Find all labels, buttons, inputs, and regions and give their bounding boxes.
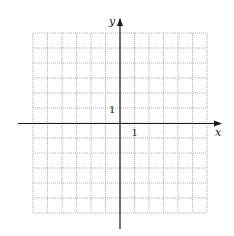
y-tick-label: 1 [109,104,115,115]
coordinate-plane: x y 1 1 [0,0,234,236]
x-axis-label: x [215,126,222,139]
x-tick-label: 1 [132,127,138,138]
y-axis-label: y [108,15,116,28]
